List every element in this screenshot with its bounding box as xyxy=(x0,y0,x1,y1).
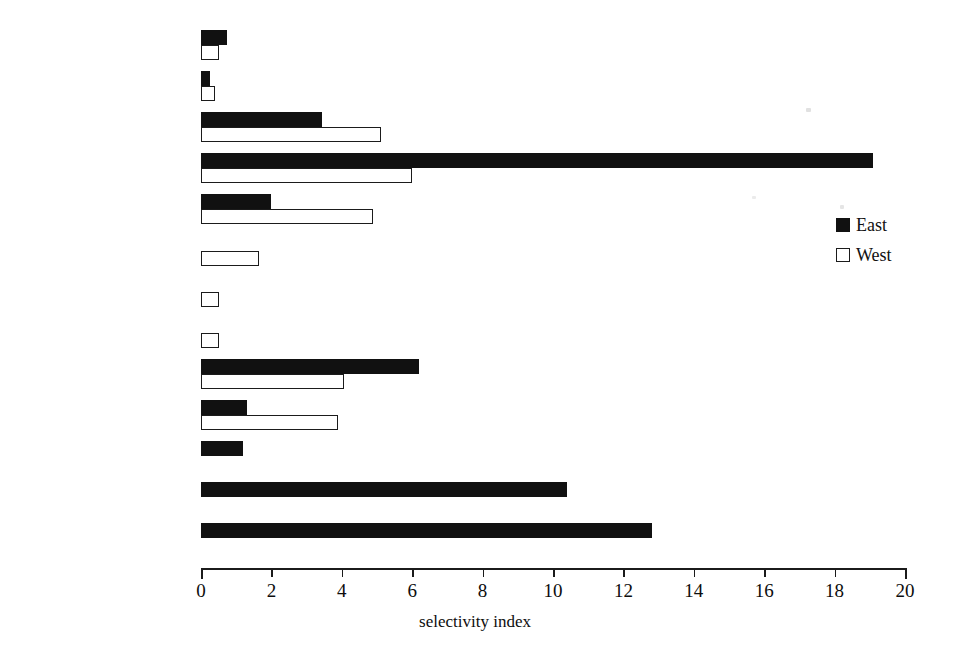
bar-chart: B. alicastrum (F)B. alicastrum (L)F. ova… xyxy=(0,0,956,666)
x-axis-tick-label: 20 xyxy=(896,580,915,602)
bar-east xyxy=(201,523,652,538)
bar-group: B. alicastrum (L) xyxy=(201,71,905,105)
bar-east xyxy=(201,482,567,497)
bar-group: E. cyclocarpum (F) xyxy=(201,482,905,516)
plot-area: B. alicastrum (F)B. alicastrum (L)F. ova… xyxy=(201,30,905,568)
legend-label-west: West xyxy=(856,246,892,264)
bar-west xyxy=(201,333,219,348)
outlined-square-icon xyxy=(836,248,850,262)
x-axis-title: selectivity index xyxy=(0,612,956,632)
legend-label-east: East xyxy=(856,216,887,234)
bar-east xyxy=(201,441,243,456)
bar-group: "botox" xyxy=(201,318,905,352)
x-axis-tick xyxy=(764,568,766,577)
x-axis-tick-label: 4 xyxy=(337,580,347,602)
x-axis-tick xyxy=(905,568,907,579)
bar-group: S. capiri xyxy=(201,400,905,434)
x-axis-tick-label: 0 xyxy=(196,580,206,602)
x-axis-tick-label: 10 xyxy=(544,580,563,602)
bar-west xyxy=(201,209,373,224)
x-axis-tick-label: 18 xyxy=(825,580,844,602)
x-axis-tick xyxy=(623,568,625,577)
bar-east xyxy=(201,153,873,168)
bar-group: G. ulmifolia xyxy=(201,359,905,393)
bar-west xyxy=(201,374,344,389)
x-axis-tick xyxy=(412,568,414,577)
x-axis-tick xyxy=(694,568,696,577)
bar-east xyxy=(201,71,210,86)
bar-west xyxy=(201,86,215,101)
x-axis-tick xyxy=(835,568,837,577)
bar-group: F. cotinifolia xyxy=(201,153,905,187)
x-axis-tick xyxy=(483,568,485,577)
bar-west xyxy=(201,251,259,266)
x-axis-tick xyxy=(342,568,344,577)
x-axis-tick-label: 6 xyxy=(407,580,417,602)
legend-item-west: West xyxy=(836,240,892,270)
bar-east xyxy=(201,112,322,127)
x-axis-tick-label: 12 xyxy=(614,580,633,602)
bar-west xyxy=(201,292,219,307)
bar-group: P. copal xyxy=(201,277,905,311)
bar-west xyxy=(201,415,338,430)
legend: East West xyxy=(836,210,892,270)
x-axis-tick xyxy=(271,568,273,577)
x-axis-tick-label: 14 xyxy=(684,580,703,602)
bar-west xyxy=(201,45,219,60)
bar-group: S. mombin xyxy=(201,441,905,475)
bar-west xyxy=(201,168,412,183)
bar-group: M. zapota xyxy=(201,194,905,228)
x-axis-tick xyxy=(553,568,555,577)
x-axis-tick-label: 8 xyxy=(478,580,488,602)
x-axis-tick-label: 2 xyxy=(267,580,277,602)
bar-group: E. cyclocarpum (L) xyxy=(201,523,905,557)
legend-item-east: East xyxy=(836,210,892,240)
bar-east xyxy=(201,400,247,415)
bar-east xyxy=(201,359,419,374)
bar-group: B. alicastrum (F) xyxy=(201,30,905,64)
bar-west xyxy=(201,127,381,142)
x-axis-title-text: selectivity index xyxy=(419,612,531,631)
bar-group: M. brownei xyxy=(201,236,905,270)
bar-east xyxy=(201,30,227,45)
bar-group: F. ovalis xyxy=(201,112,905,146)
x-axis-tick-label: 16 xyxy=(755,580,774,602)
bar-east xyxy=(201,194,271,209)
filled-square-icon xyxy=(836,218,850,232)
x-axis-tick xyxy=(201,568,203,579)
